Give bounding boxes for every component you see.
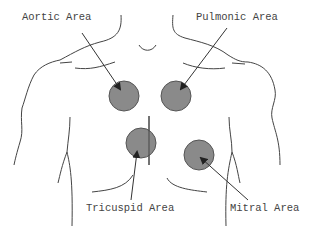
auscultation-diagram: Aortic Area Pulmonic Area Tricuspid Area… [0,0,319,238]
mitral-arrow [201,158,248,200]
suprasternal-notch [139,45,156,50]
tricuspid-area-label: Tricuspid Area [86,202,174,214]
tricuspid-area-marker[interactable] [126,128,156,158]
pulmonic-area-label: Pulmonic Area [196,11,278,23]
mitral-area-label: Mitral Area [230,202,299,214]
pulmonic-arrow [181,28,227,89]
right-clavicle-line [232,63,245,64]
left-lateral-line [58,117,70,183]
marker-group [109,81,214,170]
left-clavicle-inner [75,62,115,69]
right-clavicle-inner [183,63,225,69]
right-lateral-line [229,117,240,183]
left-costal-margin [92,175,133,192]
left-clavicle-line [60,62,72,63]
aortic-area-label: Aortic Area [22,11,91,23]
right-lateral-lower [226,152,232,226]
pulmonic-area-marker[interactable] [161,81,191,111]
right-costal-margin [167,178,207,192]
left-lateral-lower [67,152,72,226]
aortic-area-marker[interactable] [109,81,139,111]
